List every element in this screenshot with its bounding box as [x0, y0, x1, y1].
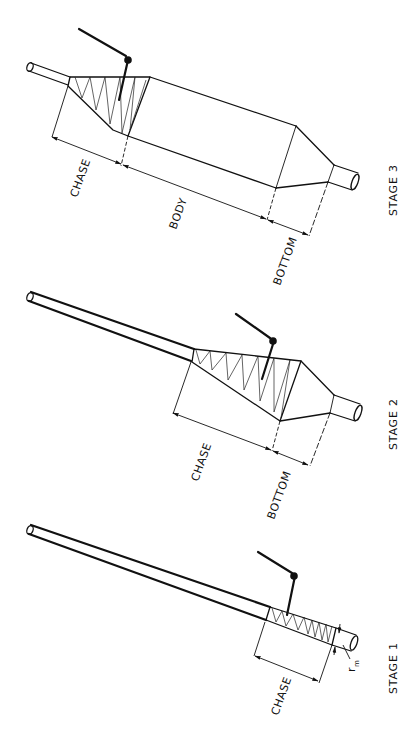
chase-winding — [68, 77, 150, 136]
dimension-extension-lines — [173, 362, 330, 466]
stage-1-title: STAGE 1 — [387, 642, 400, 694]
cop-bottom — [276, 126, 334, 188]
radius-label: r m — [345, 660, 361, 672]
chase-label: CHASE — [189, 441, 215, 483]
body-label: BODY — [167, 196, 190, 231]
spindle-stub — [330, 395, 364, 422]
bottom-label: BOTTOM — [271, 235, 300, 287]
chase-label: CHASE — [269, 675, 295, 717]
spindle-tip — [26, 62, 70, 85]
yarn-guide-wire — [79, 29, 132, 100]
chase-winding — [266, 607, 336, 645]
chase-winding — [192, 349, 301, 421]
spindle — [26, 525, 270, 620]
chase-label: CHASE — [68, 157, 94, 199]
bottom-label: BOTTOM — [265, 469, 294, 521]
cop-building-diagram: CHASE BODY BOTTOM STAGE 3 — [0, 0, 406, 750]
stage-2-diagram: CHASE BOTTOM STAGE 2 — [26, 292, 400, 521]
dimension-extension-lines — [52, 86, 328, 236]
cop-body — [128, 77, 296, 188]
dimension-lines — [173, 413, 308, 465]
stage-1-diagram: CHASE r m STAGE 1 — [26, 525, 400, 717]
stage-3-diagram: CHASE BODY BOTTOM STAGE 3 — [26, 29, 400, 287]
spindle-stub — [332, 628, 359, 651]
stage-3-title: STAGE 3 — [387, 164, 400, 216]
svg-text:m: m — [353, 660, 361, 667]
stage-2-title: STAGE 2 — [387, 398, 400, 450]
radius-dimension — [334, 624, 350, 659]
spindle — [26, 292, 194, 361]
